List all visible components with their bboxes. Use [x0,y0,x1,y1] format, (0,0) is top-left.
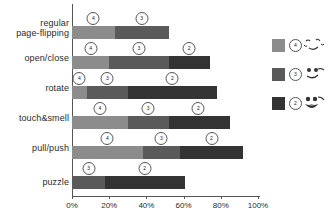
bar [72,86,258,99]
bar [72,146,258,159]
axis-tick [146,196,147,199]
axis-tick-label: 100% [248,201,268,210]
segment-level-marker: 3 [155,132,168,145]
segment-level-marker: 4 [84,42,97,55]
category-label: touch&smell [19,113,69,123]
legend-level-marker: 4 [289,39,302,52]
laughing-face-icon [303,94,325,112]
axis-tick [258,196,259,199]
bar [72,176,258,189]
bar-segment [169,56,210,69]
bar [72,26,258,39]
legend-item[interactable]: 2 [272,94,330,117]
legend-item[interactable]: 3 [272,65,330,88]
bar-segment [72,116,128,129]
segment-level-marker: 4 [93,102,106,115]
segment-level-marker: 2 [205,132,218,145]
axis-tick [109,196,110,199]
bar-segment [72,146,143,159]
bar-segment [72,176,105,189]
segment-level-marker: 2 [166,72,179,85]
category-axis-labels: regular page-flipping open/close rotate … [0,0,69,196]
bar [72,116,258,129]
axis-tick-label: 0% [66,201,78,210]
bar-segment [72,86,87,99]
category-label: puzzle [42,177,69,187]
axis-tick [221,196,222,199]
category-label: open/close [24,53,69,63]
axis-tick-label: 20% [101,201,117,210]
category-label: regular page-flipping [16,18,69,38]
stacked-bar-chart: regular page-flipping open/close rotate … [0,0,330,219]
segment-level-marker: 3 [82,162,95,175]
bar-segment [128,116,169,129]
plot-area: 0%20%40%60%80%100% 4343243243243232 [72,4,258,196]
legend-level-marker: 2 [289,97,302,110]
legend-item[interactable]: 4 [272,36,330,59]
segment-level-marker: 3 [132,42,145,55]
bar-segment [180,146,243,159]
bar-segment [105,176,185,189]
legend-level-marker: 3 [289,68,302,81]
bar-segment [72,56,109,69]
category-label: rotate [45,83,69,93]
segment-level-marker: 3 [142,102,155,115]
legend: 4 3 [272,36,330,123]
bar [72,56,258,69]
winking-face-icon [303,36,325,54]
bar-segment [169,116,230,129]
legend-swatch [272,97,285,110]
segment-level-marker: 3 [101,72,114,85]
segment-level-marker: 4 [73,72,86,85]
legend-swatch [272,68,285,81]
category-axis-line [72,196,260,197]
axis-tick-label: 60% [176,201,192,210]
category-label: pull/push [32,143,69,153]
bar-segment [128,86,217,99]
segment-level-marker: 4 [101,132,114,145]
bar-segment [87,86,128,99]
bar-segment [109,56,169,69]
segment-level-marker: 4 [87,12,100,25]
segment-level-marker: 2 [138,162,151,175]
axis-tick [184,196,185,199]
bar-segment [143,146,180,159]
segment-level-marker: 2 [192,102,205,115]
bar-segment [115,26,169,39]
axis-tick-label: 40% [138,201,154,210]
bar-segment [72,26,115,39]
legend-swatch [272,39,285,52]
axis-tick [72,196,73,199]
segment-level-marker: 3 [135,12,148,25]
smiling-face-icon [303,65,325,83]
axis-tick-label: 80% [213,201,229,210]
segment-level-marker: 2 [183,42,196,55]
